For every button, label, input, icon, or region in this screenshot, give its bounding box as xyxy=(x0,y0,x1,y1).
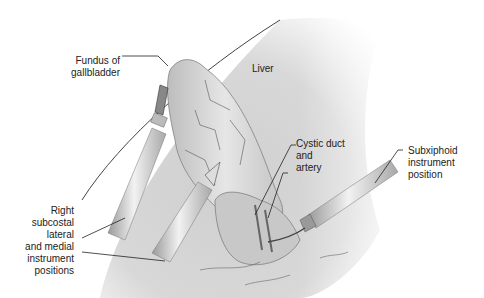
label-subxiphoid: Subxiphoid instrument position xyxy=(408,145,457,181)
illustration: Fundus of gallbladder Liver Cystic duct … xyxy=(0,0,484,298)
label-cystic-duct: Cystic duct and artery xyxy=(296,138,345,174)
label-subcostal: Right subcostal lateral and medial instr… xyxy=(10,205,74,277)
label-liver: Liver xyxy=(252,63,274,75)
label-fundus: Fundus of gallbladder xyxy=(58,55,120,79)
